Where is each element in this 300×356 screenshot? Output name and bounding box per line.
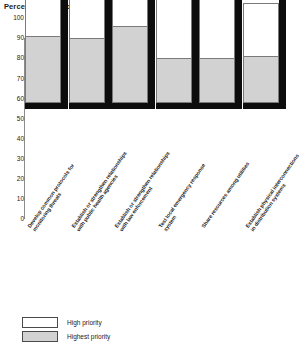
legend-item-highest-priority: Highest priority bbox=[22, 330, 202, 343]
bar-segment-high-priority-3 bbox=[112, 0, 148, 103]
bar-segment-highest-priority-5 bbox=[200, 58, 234, 102]
bar-side-shadow-6 bbox=[279, 3, 286, 109]
bar-segment-highest-priority-6 bbox=[244, 56, 278, 102]
bar-side-shadow-4 bbox=[192, 0, 199, 109]
x-axis-category-labels: Develop common protocols for monitoring … bbox=[0, 222, 300, 310]
chart-container: Percentage of experts 100908070605040302… bbox=[0, 0, 300, 356]
bar-segment-highest-priority-1 bbox=[26, 36, 60, 102]
bar-side-shadow-2 bbox=[105, 0, 112, 109]
bar-segment-high-priority-4 bbox=[156, 0, 192, 103]
y-tick-10: 10 bbox=[4, 196, 24, 203]
bar-segment-highest-priority-4 bbox=[157, 58, 191, 102]
bar-segment-high-priority-2 bbox=[69, 0, 105, 103]
bar-side-shadow-1 bbox=[61, 0, 68, 109]
bar-segment-highest-priority-3 bbox=[113, 26, 147, 102]
bar-segment-highest-priority-2 bbox=[70, 38, 104, 102]
y-tick-20: 20 bbox=[4, 176, 24, 183]
legend-swatch-highest-priority bbox=[22, 331, 58, 342]
bar-side-shadow-3 bbox=[148, 0, 155, 109]
y-tick-50: 50 bbox=[4, 116, 24, 123]
bar-base-shadow-6 bbox=[243, 103, 279, 109]
bar-segment-high-priority-6 bbox=[243, 3, 279, 103]
bar-segment-high-priority-5 bbox=[199, 0, 235, 103]
bar-2 bbox=[69, 0, 105, 103]
bar-segment-high-priority-1 bbox=[25, 0, 61, 103]
bar-base-shadow-3 bbox=[112, 103, 148, 109]
y-tick-60: 60 bbox=[4, 96, 24, 103]
bar-top-shadow-6 bbox=[279, 0, 286, 3]
bar-base-shadow-2 bbox=[69, 103, 105, 109]
y-tick-80: 80 bbox=[4, 55, 24, 62]
chart-legend: High priority Highest priority bbox=[22, 316, 202, 344]
bar-4 bbox=[156, 0, 192, 103]
legend-label-highest-priority: Highest priority bbox=[67, 333, 110, 340]
y-tick-30: 30 bbox=[4, 156, 24, 163]
bar-3 bbox=[112, 0, 148, 103]
bar-1 bbox=[25, 0, 61, 103]
y-tick-100: 100 bbox=[4, 15, 24, 22]
legend-label-high-priority: High priority bbox=[67, 319, 102, 326]
y-tick-90: 90 bbox=[4, 35, 24, 42]
legend-item-high-priority: High priority bbox=[22, 316, 202, 329]
bar-base-shadow-1 bbox=[25, 103, 61, 109]
legend-swatch-high-priority bbox=[22, 317, 58, 328]
bar-5 bbox=[199, 0, 235, 103]
bar-side-shadow-5 bbox=[235, 0, 242, 109]
y-tick-70: 70 bbox=[4, 76, 24, 83]
bar-6 bbox=[243, 3, 279, 103]
y-tick-40: 40 bbox=[4, 136, 24, 143]
bar-base-shadow-5 bbox=[199, 103, 235, 109]
bar-base-shadow-4 bbox=[156, 103, 192, 109]
